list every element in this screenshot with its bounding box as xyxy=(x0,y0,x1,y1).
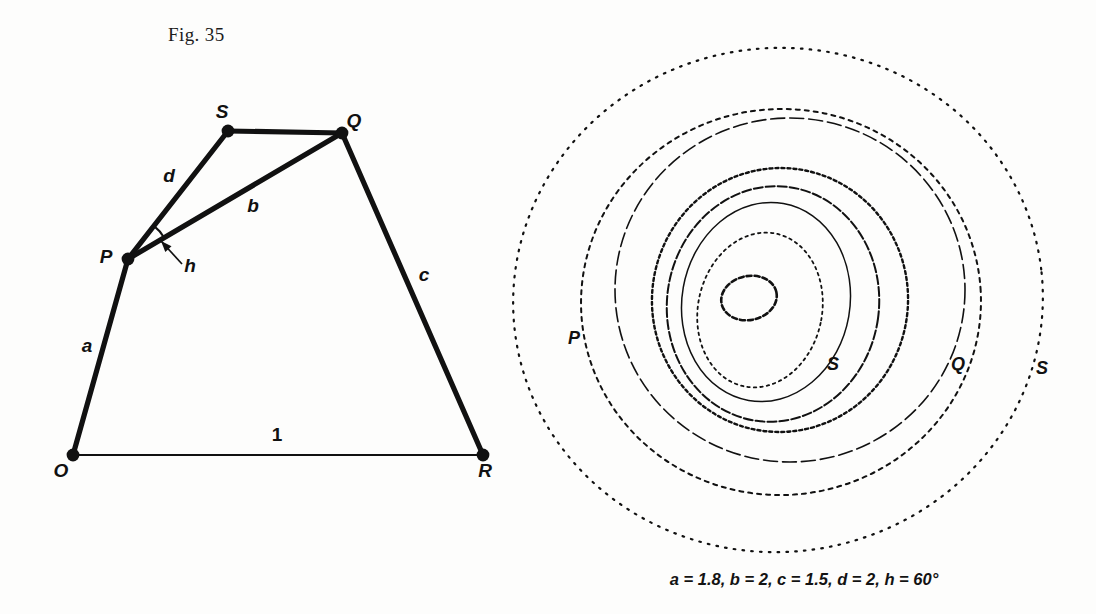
vertex-label-s: S xyxy=(216,101,229,122)
coupler-curve-small-curve xyxy=(683,221,837,399)
four-bar-linkage-diagram: adbc1OPSQRh xyxy=(0,0,540,500)
figure-page: Fig. 35 adbc1OPSQRh PSQS a = 1.8, b = 2,… xyxy=(0,0,1096,614)
coupler-curve-q-curve xyxy=(568,96,994,509)
curve-label-s-inner: S xyxy=(827,354,839,374)
joint-o xyxy=(67,449,80,462)
link-SQ xyxy=(228,131,342,133)
coupler-curve-paths xyxy=(500,25,1068,578)
angle-label-h: h xyxy=(184,255,196,276)
link-label-d: d xyxy=(163,165,175,186)
angle-arc-h xyxy=(154,226,164,238)
coupler-curve-s-curve-inner xyxy=(666,189,866,415)
link-label-ground: 1 xyxy=(272,424,283,445)
vertex-label-q: Q xyxy=(347,110,362,131)
vertex-label-o: O xyxy=(54,460,69,481)
figure-caption: a = 1.8, b = 2, c = 1.5, d = 2, h = 60° xyxy=(604,570,1004,589)
vertex-label-p: P xyxy=(100,246,113,267)
joint-p xyxy=(122,253,135,266)
curve-label-s-outer: S xyxy=(1036,358,1048,378)
link-d xyxy=(128,131,228,259)
link-a xyxy=(73,259,128,455)
link-c xyxy=(342,133,483,455)
coupler-curve-mid-curve-2 xyxy=(652,172,895,435)
linkage-links xyxy=(73,131,483,455)
curve-label-p: P xyxy=(568,328,581,348)
joint-s xyxy=(222,125,235,138)
link-label-a: a xyxy=(82,335,93,356)
coupler-curve-innermost-loop xyxy=(717,271,781,326)
link-label-c: c xyxy=(419,264,430,285)
vertex-label-r: R xyxy=(478,460,492,481)
coupler-curves-diagram: PSQS xyxy=(500,25,1090,585)
link-b xyxy=(128,133,342,259)
linkage-joints xyxy=(67,125,490,462)
curve-label-q: Q xyxy=(951,354,965,374)
link-label-b: b xyxy=(247,195,259,216)
